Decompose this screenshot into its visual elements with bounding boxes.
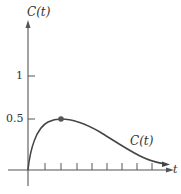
y-tick-label-0.5: 0.5: [6, 113, 24, 124]
x-axis-label: t: [173, 164, 177, 175]
y-axis-arrow-icon: [26, 20, 31, 28]
maximum-point: [58, 116, 64, 122]
x-ticks: [45, 163, 152, 170]
curve-label: C(t): [130, 135, 153, 147]
y-axis-label: C(t): [27, 6, 50, 18]
y-tick-label-1: 1: [16, 70, 23, 81]
curve-arrow-icon: [162, 162, 170, 168]
chart-canvas: [0, 0, 181, 194]
